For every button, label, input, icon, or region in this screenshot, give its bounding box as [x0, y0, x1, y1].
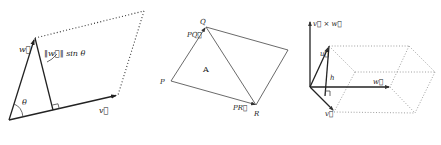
- panel-triangle: Q P R A PQ⃗ PR⃗: [159, 18, 288, 118]
- box-edge: [329, 46, 355, 72]
- label-v: v⃗: [325, 110, 333, 118]
- panel-parallelepiped: v⃗ × w⃗ u⃗ h w⃗ v⃗: [310, 20, 435, 118]
- right-angle-marker: [53, 104, 60, 109]
- label-theta: θ: [22, 98, 27, 107]
- edge-right: [256, 50, 288, 105]
- label-w: w⃗: [19, 45, 31, 54]
- label-height: ‖w⃗‖ sin θ: [44, 49, 86, 58]
- label-pr: PR⃗: [232, 104, 247, 112]
- box-edge: [390, 87, 415, 113]
- dotted-top-edge: [35, 11, 144, 38]
- box-edge: [334, 112, 415, 113]
- box-edge: [415, 72, 435, 113]
- panel-parallelogram: w⃗ θ v⃗ ‖w⃗‖ sin θ: [9, 11, 144, 120]
- box-edge: [334, 72, 355, 112]
- label-u: u⃗: [320, 50, 329, 58]
- label-pq: PQ⃗: [186, 31, 202, 39]
- box-edge: [390, 46, 409, 87]
- box-edge: [409, 46, 435, 72]
- label-r: R: [253, 110, 260, 118]
- label-v: v⃗: [99, 106, 109, 115]
- figure-canvas: w⃗ θ v⃗ ‖w⃗‖ sin θ Q P R A PQ⃗ PR⃗: [0, 0, 441, 145]
- label-cross-product: v⃗ × w⃗: [313, 20, 342, 28]
- label-area-a: A: [202, 65, 209, 74]
- dotted-right-edge: [118, 11, 144, 95]
- vector-v-arrow: [310, 87, 333, 110]
- label-h: h: [330, 74, 335, 82]
- label-q: Q: [200, 18, 206, 26]
- label-p: P: [159, 78, 165, 86]
- label-w: w⃗: [373, 78, 383, 86]
